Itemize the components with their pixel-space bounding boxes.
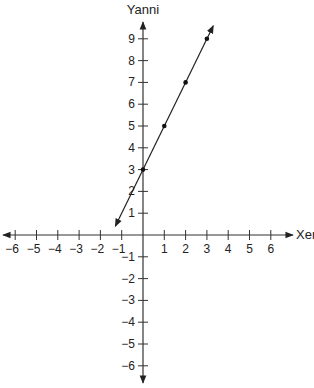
y-tick-label: 8 xyxy=(128,54,135,68)
data-point xyxy=(141,167,146,172)
y-tick-label: −2 xyxy=(121,272,135,286)
x-tick-label: 3 xyxy=(204,242,211,256)
y-axis-label: Yanni xyxy=(127,2,159,17)
coordinate-plane: XeniaYanni−6−5−4−3−2−1123456−6−5−4−3−2−1… xyxy=(0,0,314,388)
y-tick-label: 1 xyxy=(128,206,135,220)
x-tick-label: −3 xyxy=(69,242,83,256)
y-tick-label: −3 xyxy=(121,293,135,307)
y-tick-label: 9 xyxy=(128,32,135,46)
y-tick-label: 6 xyxy=(128,97,135,111)
x-tick-label: −4 xyxy=(48,242,62,256)
x-axis-label: Xenia xyxy=(296,227,314,242)
x-tick-label: 5 xyxy=(246,242,253,256)
data-point xyxy=(183,80,188,85)
x-tick-label: 6 xyxy=(267,242,274,256)
data-point xyxy=(162,124,167,129)
y-tick-label: 7 xyxy=(128,75,135,89)
x-tick-label: −2 xyxy=(91,242,105,256)
y-tick-label: −6 xyxy=(121,359,135,373)
x-tick-label: 2 xyxy=(182,242,189,256)
data-point xyxy=(205,37,210,42)
x-tick-label: 1 xyxy=(161,242,168,256)
y-tick-label: 3 xyxy=(128,163,135,177)
x-tick-label: −6 xyxy=(5,242,19,256)
y-tick-label: 4 xyxy=(128,141,135,155)
y-tick-label: −1 xyxy=(121,250,135,264)
y-tick-label: −4 xyxy=(121,315,135,329)
x-tick-label: 4 xyxy=(225,242,232,256)
x-tick-label: −5 xyxy=(27,242,41,256)
y-tick-label: 5 xyxy=(128,119,135,133)
y-tick-label: −5 xyxy=(121,337,135,351)
